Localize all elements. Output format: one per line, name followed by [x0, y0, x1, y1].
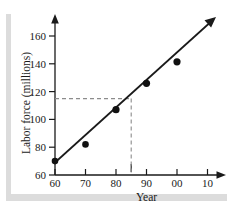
y-tick-label-160: 160 [30, 30, 47, 42]
data-point [52, 158, 59, 165]
y-tick-label-100: 100 [30, 113, 47, 125]
x-tick-label-10: 10 [202, 177, 214, 189]
x-tick-label-00: 00 [172, 177, 184, 189]
data-point [112, 106, 119, 113]
x-tick-label-90: 90 [141, 177, 153, 189]
y-tick-label-80: 80 [35, 141, 47, 153]
data-point [143, 80, 150, 87]
x-tick-label-70: 70 [80, 177, 92, 189]
y-tick-label-60: 60 [35, 169, 47, 181]
x-tick-label-80: 80 [111, 177, 123, 189]
chart-canvas: 60 80 100 120 140 160 60 70 80 90 00 10 [0, 0, 233, 209]
chart-figure: 60 80 100 120 140 160 60 70 80 90 00 10 [0, 0, 233, 209]
data-point [173, 58, 180, 65]
x-axis-title: Year [136, 191, 157, 203]
y-tick-label-140: 140 [30, 58, 47, 70]
x-tick-label-60: 60 [50, 177, 62, 189]
data-point [82, 141, 89, 148]
y-axis-title: Labor force (millions) [20, 52, 33, 154]
y-tick-label-120: 120 [30, 86, 47, 98]
